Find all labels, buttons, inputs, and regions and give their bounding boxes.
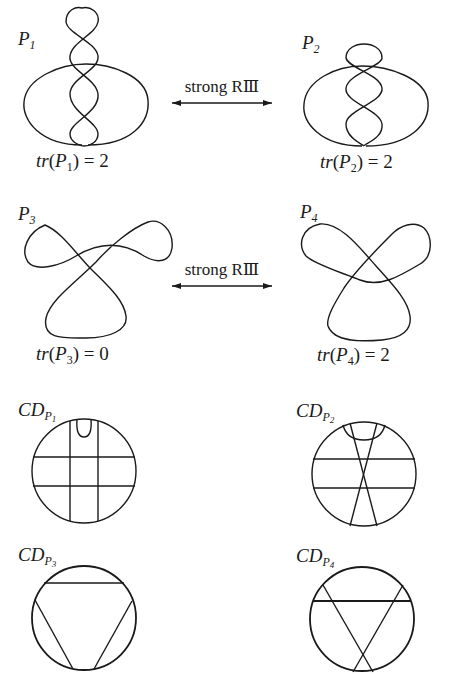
move-label-bottom: strong RⅢ: [167, 261, 277, 278]
chord-label-p3: CDP3: [18, 545, 56, 569]
trace-caption-p4: tr(P4) = 2: [317, 345, 390, 367]
chord-diagram-p2: [312, 422, 416, 526]
curve-label-p4: P4: [300, 202, 318, 224]
chord-diagram-p1: [32, 419, 136, 523]
trace-caption-p3: tr(P3) = 0: [36, 344, 109, 366]
trace-caption-p2: tr(P2) = 2: [320, 152, 393, 174]
figure-canvas: [0, 0, 451, 681]
curve-label-p2: P2: [302, 33, 320, 55]
curve-label-p1: P1: [18, 29, 36, 51]
move-arrow-top: [172, 100, 272, 106]
chord-label-p2: CDP2: [296, 401, 334, 425]
chord-diagram-p3: [32, 566, 136, 670]
curve-label-p3: P3: [18, 204, 36, 226]
chord-diagram-p4: [310, 567, 414, 672]
curve-p1: [24, 8, 148, 146]
curve-p3: [25, 221, 172, 338]
move-arrow-bottom: [172, 283, 272, 289]
chord-label-p4: CDP4: [296, 546, 334, 570]
trace-caption-p1: tr(P1) = 2: [36, 151, 109, 173]
curve-p4: [302, 224, 431, 341]
move-label-top: strong RⅢ: [167, 78, 277, 95]
curve-p2: [304, 44, 428, 146]
chord-label-p1: CDP1: [18, 400, 56, 424]
